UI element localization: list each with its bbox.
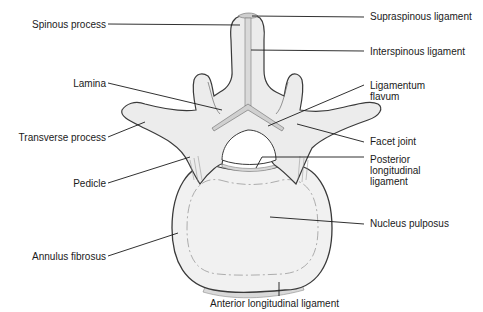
leader-spinous-process: [108, 24, 240, 25]
leader-pedicle: [108, 157, 190, 183]
interspinous-ligament-shape: [245, 18, 251, 106]
label-interspinous-ligament: Interspinous ligament: [370, 46, 465, 57]
leader-transverse-process: [108, 122, 145, 137]
label-nucleus-pulposus: Nucleus pulposus: [370, 218, 449, 229]
label-pedicle: Pedicle: [73, 178, 106, 189]
label-facet-joint: Facet joint: [370, 136, 416, 147]
label-spinous-process: Spinous process: [32, 19, 106, 30]
label-lamina: Lamina: [73, 78, 106, 89]
label-transverse-process: Transverse process: [19, 132, 106, 143]
posterior-arch: [122, 13, 381, 184]
label-supraspinous-ligament: Supraspinous ligament: [370, 11, 472, 22]
vertebral-body: [172, 164, 332, 298]
leader-supraspinous-ligament: [252, 16, 364, 17]
label-annulus-fibrosus: Annulus fibrosus: [32, 251, 106, 262]
label-anterior-longitudinal-ligament: Anterior longitudinal ligament: [210, 298, 339, 309]
label-ligamentum-flavum: Ligamentum flavum: [370, 80, 425, 102]
annulus-fibrosus-shape: [172, 165, 332, 292]
label-posterior-longitudinal-ligament: Posterior longitudinal ligament: [370, 154, 421, 187]
leader-interspinous-ligament: [251, 50, 364, 51]
leader-annulus-fibrosus: [108, 233, 178, 256]
